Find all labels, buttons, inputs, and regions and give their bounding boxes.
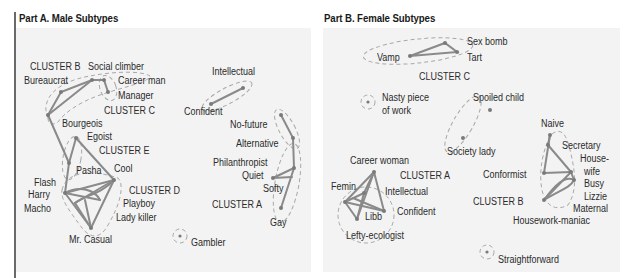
node-label: Confident	[397, 206, 436, 217]
cluster-label: CLUSTER A	[400, 170, 450, 181]
node-label: Spoiled child	[473, 92, 524, 103]
node-label: Intellectual	[212, 66, 255, 77]
node-label: Tart	[467, 52, 482, 63]
node-label: Bourgeois	[62, 118, 103, 129]
node-label: Secretary	[562, 140, 601, 151]
node-label: Alternative	[236, 138, 279, 149]
node-label: Pasha	[76, 165, 102, 176]
node-label: Lizzie	[584, 191, 607, 202]
node-label: Harry	[28, 189, 50, 200]
node-label: Society lady	[447, 146, 496, 157]
node-label: Macho	[24, 203, 51, 214]
node-label: Libb	[365, 211, 382, 222]
node-label: Housework-maniac	[513, 215, 590, 226]
node-label: Mr. Casual	[69, 234, 112, 245]
cluster-label: CLUSTER C	[104, 105, 155, 116]
node-label: House-	[580, 153, 609, 164]
cluster-label: CLUSTER A	[212, 199, 262, 210]
node-label: Gay	[270, 217, 287, 228]
node-label: Manager	[118, 90, 154, 101]
node-label: Nasty piece	[382, 92, 429, 103]
node-label: Naive	[541, 118, 564, 129]
node-label: Social climber	[88, 61, 144, 72]
node-label: Busy	[584, 178, 604, 189]
node-label: Gambler	[191, 237, 226, 248]
node-label: of work	[382, 105, 411, 116]
node-label: Lefty-ecologist	[346, 230, 404, 241]
cluster-label: CLUSTER E	[99, 145, 150, 156]
node-label: Lady killer	[116, 212, 157, 223]
node-label: wife	[584, 166, 600, 177]
node-label: Vamp	[377, 52, 400, 63]
node-label: Egoist	[87, 131, 112, 142]
cluster-label: CLUSTER B	[473, 196, 524, 207]
node-label: Softy	[263, 183, 284, 194]
node-label: Cool	[114, 163, 133, 174]
cluster-label: CLUSTER B	[30, 61, 81, 72]
node-label: Playboy	[123, 198, 155, 209]
node-label: Straightforward	[498, 254, 559, 265]
node-label: Bureaucrat	[24, 75, 68, 86]
node-label: No-future	[230, 119, 268, 130]
node-label: Intellectual	[385, 186, 428, 197]
node-label: Confident	[184, 106, 223, 117]
cluster-label: CLUSTER C	[419, 71, 470, 82]
node-label: Maternal	[573, 203, 608, 214]
node-label: Quiet	[242, 170, 264, 181]
node-label: Femin	[331, 181, 356, 192]
node-label: Career man	[118, 75, 166, 86]
node-label: Conformist	[483, 169, 527, 180]
node-label: Sex bomb	[467, 36, 508, 47]
node-label: Flash	[34, 177, 56, 188]
node-label: Career woman	[350, 155, 409, 166]
node-label: Philanthropist	[213, 157, 268, 168]
cluster-label: CLUSTER D	[129, 185, 180, 196]
